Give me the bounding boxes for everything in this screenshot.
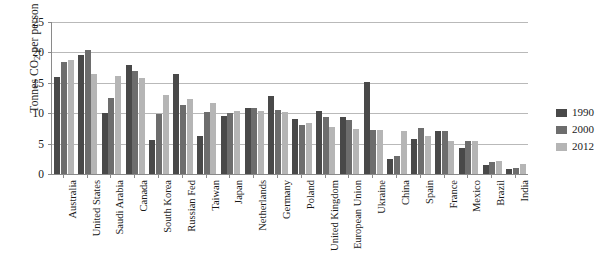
bar[interactable] <box>68 60 74 174</box>
bar[interactable] <box>496 161 502 174</box>
x-axis-tick-mark <box>206 174 207 178</box>
bar[interactable] <box>275 110 281 174</box>
bar[interactable] <box>61 62 67 174</box>
bar[interactable] <box>245 108 251 174</box>
x-axis-tick-mark <box>325 174 326 178</box>
bar[interactable] <box>149 140 155 174</box>
bar[interactable] <box>340 117 346 174</box>
legend-item[interactable]: 2000 <box>556 121 614 138</box>
bar-group <box>385 22 409 174</box>
bar-group <box>338 22 362 174</box>
y-axis-tick-labels: 0510152025 <box>14 16 44 176</box>
bar[interactable] <box>221 116 227 174</box>
y-axis-tick-label: 0 <box>14 168 44 180</box>
bar[interactable] <box>126 65 132 174</box>
bar[interactable] <box>78 55 84 174</box>
bar[interactable] <box>163 95 169 174</box>
x-axis-label-cell: United States <box>75 180 99 270</box>
y-axis-tick-mark <box>48 113 52 114</box>
bar[interactable] <box>282 112 288 174</box>
bar[interactable] <box>156 114 162 174</box>
x-axis-tick-mark <box>396 174 397 178</box>
bar[interactable] <box>425 136 431 174</box>
bar[interactable] <box>489 162 495 174</box>
bar-group <box>314 22 338 174</box>
bar[interactable] <box>299 125 305 174</box>
bar[interactable] <box>91 74 97 174</box>
bar[interactable] <box>234 111 240 174</box>
x-axis-tick-mark <box>110 174 111 178</box>
x-axis-tick-mark <box>372 174 373 178</box>
y-axis-tick-mark <box>48 52 52 53</box>
y-axis-tick-mark <box>48 22 52 23</box>
bar[interactable] <box>483 165 489 174</box>
x-axis-label-cell: Brazil <box>479 180 503 270</box>
bar[interactable] <box>258 111 264 174</box>
bar[interactable] <box>306 123 312 174</box>
bar[interactable] <box>448 141 454 174</box>
legend-item[interactable]: 1990 <box>556 104 614 121</box>
x-axis-tick-mark <box>467 174 468 178</box>
x-axis-tick-mark <box>444 174 445 178</box>
bar-group <box>409 22 433 174</box>
bar[interactable] <box>459 148 465 174</box>
bar[interactable] <box>102 113 108 174</box>
x-axis-label-cell: China <box>384 180 408 270</box>
bar[interactable] <box>465 141 471 174</box>
y-axis-tick-mark <box>48 144 52 145</box>
bar[interactable] <box>268 96 274 174</box>
bar[interactable] <box>132 71 138 174</box>
bar[interactable] <box>197 136 203 174</box>
bar[interactable] <box>292 119 298 174</box>
bar[interactable] <box>377 130 383 174</box>
bar[interactable] <box>227 113 233 174</box>
bar-group <box>195 22 219 174</box>
bar[interactable] <box>210 103 216 174</box>
x-axis-tick-mark <box>134 174 135 178</box>
bar[interactable] <box>323 117 329 174</box>
legend-label: 2012 <box>572 141 594 152</box>
bar[interactable] <box>387 159 393 174</box>
bar[interactable] <box>54 77 60 174</box>
bar[interactable] <box>472 141 478 174</box>
bar[interactable] <box>394 156 400 174</box>
bar[interactable] <box>204 112 210 174</box>
x-axis-label-cell: Australia <box>51 180 75 270</box>
bar[interactable] <box>85 50 91 174</box>
x-axis-tick-mark <box>348 174 349 178</box>
x-axis-tick-mark <box>515 174 516 178</box>
bar[interactable] <box>108 98 114 174</box>
bar[interactable] <box>370 130 376 174</box>
bar[interactable] <box>187 99 193 174</box>
bar[interactable] <box>251 108 257 174</box>
bar[interactable] <box>442 131 448 174</box>
bar[interactable] <box>346 120 352 174</box>
bar[interactable] <box>435 131 441 174</box>
bar-group <box>219 22 243 174</box>
bar[interactable] <box>353 129 359 174</box>
y-axis-tick-label: 10 <box>14 107 44 119</box>
bar[interactable] <box>139 78 145 174</box>
bar-group <box>123 22 147 174</box>
x-axis-label-cell: Ukraine <box>360 180 384 270</box>
bar[interactable] <box>173 74 179 174</box>
legend-swatch-icon <box>556 126 567 134</box>
legend-swatch-icon <box>556 143 567 151</box>
bar[interactable] <box>316 111 322 174</box>
legend-swatch-icon <box>556 109 567 117</box>
y-axis-tick-mark <box>48 83 52 84</box>
bar[interactable] <box>329 127 335 174</box>
bar[interactable] <box>418 128 424 174</box>
bar[interactable] <box>411 139 417 174</box>
plot-area <box>51 22 528 175</box>
bar[interactable] <box>115 76 121 174</box>
bar[interactable] <box>401 131 407 174</box>
bars-layer <box>52 22 528 174</box>
bar[interactable] <box>180 105 186 174</box>
y-axis-tick-label: 20 <box>14 46 44 58</box>
legend: 199020002012 <box>556 104 614 155</box>
bar[interactable] <box>520 164 526 174</box>
y-axis-tick-label: 25 <box>14 16 44 28</box>
bar[interactable] <box>364 82 370 174</box>
legend-item[interactable]: 2012 <box>556 138 614 155</box>
